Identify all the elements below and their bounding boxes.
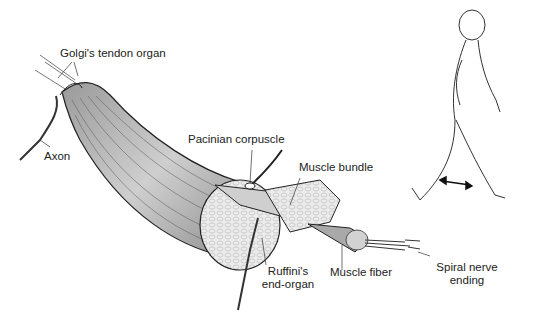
label-ruffini-line2: end-organ	[258, 278, 318, 291]
label-ruffini-end-organ: Ruffini's end-organ	[258, 265, 318, 291]
pacinian-nerve	[250, 150, 282, 186]
fiber-end	[346, 230, 368, 250]
pacinian-corpuscle-shape	[245, 183, 255, 189]
label-pacinian-corpuscle: Pacinian corpuscle	[188, 133, 285, 146]
label-ruffini-line1: Ruffini's	[258, 265, 318, 278]
walking-figure	[412, 10, 505, 200]
movement-arrow-icon	[440, 177, 472, 189]
label-muscle-bundle: Muscle bundle	[299, 161, 373, 174]
label-golgi-tendon-organ: Golgi's tendon organ	[60, 47, 166, 60]
label-spiral-line2: ending	[432, 274, 502, 287]
spiral-nerve-ending-shape	[365, 240, 420, 250]
label-spiral-line1: Spiral nerve	[432, 261, 502, 274]
label-muscle-fiber: Muscle fiber	[330, 266, 392, 279]
label-axon: Axon	[44, 150, 70, 163]
label-spiral-nerve-ending: Spiral nerve ending	[432, 261, 502, 287]
